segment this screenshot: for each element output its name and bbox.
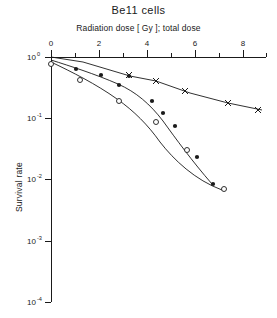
data-point-open [78,78,83,83]
x-major-ticks [51,50,243,57]
y-exponent-2: -2 [37,173,42,179]
data-point-filled [74,67,78,71]
data-point-filled [150,99,154,103]
data-point-open [117,99,122,104]
markers-cross [126,72,261,113]
y-tick-label-1e-4: 10 [27,298,36,307]
y-exponent-4: -4 [37,296,42,302]
x-tick-label-8: 8 [241,39,246,48]
y-exponent-0: 0 [37,51,40,57]
y-tick-label-1e0: 10 [27,53,36,62]
survival-curve-figure: Be11 cells Radiation dose [ Gy ]; total … [0,0,277,318]
y-exponent-3: -3 [37,235,42,241]
x-tick-label-0: 0 [49,39,54,48]
data-point-filled [173,124,177,128]
curve-filled-series [51,60,212,184]
data-point-open [154,120,159,125]
data-point-filled [211,182,215,186]
x-tick-label-2: 2 [97,39,102,48]
curve-open-series [51,62,222,190]
x-minor-ticks [75,53,266,57]
plot-area: 0 2 4 6 8 10 10 10 10 10 0 -1 -2 -3 -4 [0,0,277,318]
y-tick-label-1e-3: 10 [27,237,36,246]
markers-open-circle [49,62,227,192]
data-point-open [222,187,227,192]
y-tick-label-1e-2: 10 [27,175,36,184]
x-tick-label-6: 6 [193,39,198,48]
data-point-open [185,148,190,153]
data-point-open [49,62,54,67]
data-point-filled [117,83,121,87]
data-point-filled [99,73,103,77]
data-point-filled [161,111,165,115]
curve-cross-series [51,57,262,110]
y-exponent-1: -1 [37,112,42,118]
x-tick-label-4: 4 [145,39,150,48]
data-point-filled [195,155,199,159]
data-point-cross [182,88,188,94]
y-tick-label-1e-1: 10 [27,114,36,123]
y-major-ticks [45,57,51,302]
